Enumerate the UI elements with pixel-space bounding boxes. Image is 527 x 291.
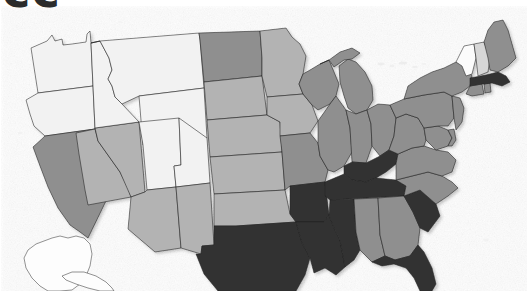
state-AZ[interactable]: Arizona	[128, 187, 181, 252]
page-heading-clip: cc	[0, 0, 120, 15]
state-RI[interactable]: Rhode Island	[484, 83, 491, 93]
state-KS[interactable]: Kansas	[210, 152, 285, 194]
state-SD[interactable]: South Dakota	[204, 76, 267, 120]
state-ME[interactable]: Maine	[484, 20, 516, 72]
state-WA[interactable]: Washington	[31, 31, 93, 93]
state-MD[interactable]: Maryland	[424, 126, 452, 150]
us-map-svg: Washington Oregon California Nevada Neva…	[0, 0, 527, 291]
state-OR[interactable]: Oregon	[26, 86, 95, 136]
state-NM[interactable]: New Mexico	[176, 183, 214, 254]
alaska-inset: Alaska Alaska	[24, 236, 114, 291]
state-MN[interactable]: Minnesota	[260, 28, 306, 97]
state-OK[interactable]: Oklahoma	[214, 190, 296, 226]
state-NE[interactable]: Nebraska	[207, 115, 282, 157]
us-choropleth-map: Washington Oregon California Nevada Neva…	[0, 0, 527, 291]
state-NJ[interactable]: New Jersey	[452, 96, 464, 130]
state-ND[interactable]: North Dakota	[199, 31, 262, 82]
state-AR[interactable]: Arkansas	[290, 182, 329, 222]
state-MI[interactable]: Michigan	[339, 59, 373, 114]
page-heading: cc	[2, 0, 61, 14]
map-page: cc	[0, 0, 527, 291]
state-UT[interactable]: Utah	[139, 118, 181, 190]
